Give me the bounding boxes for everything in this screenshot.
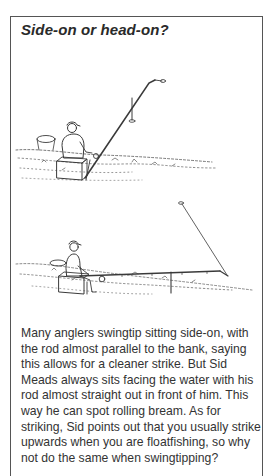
panel-body-text: Many anglers swingtip sitting side-on, w…: [21, 326, 266, 466]
head-on-angler-illustration: [12, 190, 262, 320]
side-on-angler-illustration: [12, 50, 262, 185]
panel-title: Side-on or head-on?: [21, 21, 169, 38]
